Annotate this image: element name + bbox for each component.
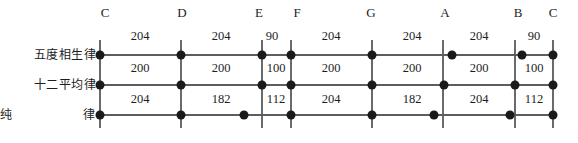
interval-value: 100 <box>267 62 286 75</box>
interval-value: 204 <box>470 30 489 43</box>
note-letter-c1: C <box>101 6 110 19</box>
node-dot <box>506 111 515 120</box>
node-dot <box>430 111 439 120</box>
pitch-systems-comparison-diagram: C D E F G A B C 五度相生律 十二平均律 纯 律 204 204 … <box>0 0 578 143</box>
note-letter-e: E <box>255 6 263 19</box>
node-dot <box>511 81 520 90</box>
node-dot <box>177 51 186 60</box>
interval-value: 100 <box>525 62 544 75</box>
interval-value: 204 <box>322 30 341 43</box>
node-dot <box>240 111 249 120</box>
node-dot <box>287 111 296 120</box>
interval-value: 200 <box>131 62 150 75</box>
node-dot <box>258 51 267 60</box>
staff-line-equal-temperament <box>99 84 555 86</box>
interval-value: 112 <box>525 93 543 106</box>
interval-value: 182 <box>403 93 422 106</box>
node-dot <box>549 51 558 60</box>
interval-value: 204 <box>131 30 150 43</box>
interval-value: 112 <box>267 93 285 106</box>
node-dot <box>448 51 457 60</box>
interval-value: 200 <box>322 62 341 75</box>
interval-value: 200 <box>212 62 231 75</box>
node-dot <box>96 111 105 120</box>
interval-value: 204 <box>131 93 150 106</box>
node-dot <box>287 81 296 90</box>
node-dot <box>440 81 449 90</box>
interval-value: 182 <box>212 93 231 106</box>
interval-value: 204 <box>403 30 422 43</box>
staff-line-pythagorean <box>99 54 555 56</box>
note-letter-d: D <box>177 6 186 19</box>
row-label-just-intonation: 纯 律 <box>0 109 96 121</box>
node-dot <box>177 81 186 90</box>
interval-value: 204 <box>212 30 231 43</box>
node-dot <box>368 51 377 60</box>
note-letter-c2: C <box>549 6 558 19</box>
interval-value: 90 <box>266 30 279 43</box>
note-letter-a: A <box>440 6 449 19</box>
interval-value: 200 <box>470 62 489 75</box>
interval-value: 200 <box>403 62 422 75</box>
row-label-pythagorean: 五度相生律 <box>0 49 96 61</box>
note-letter-b: B <box>514 6 523 19</box>
interval-value: 204 <box>470 93 489 106</box>
node-dot <box>177 111 186 120</box>
node-dot <box>368 111 377 120</box>
interval-value: 90 <box>528 30 541 43</box>
node-dot <box>287 51 296 60</box>
node-dot <box>368 81 377 90</box>
interval-value: 204 <box>322 93 341 106</box>
node-dot <box>549 81 558 90</box>
node-dot <box>518 51 527 60</box>
node-dot <box>96 51 105 60</box>
row-label-just-intonation-text: 纯 律 <box>0 109 96 121</box>
node-dot <box>549 111 558 120</box>
row-label-equal-temperament: 十二平均律 <box>0 79 96 91</box>
staff-line-just-intonation <box>99 114 555 116</box>
node-dot <box>258 81 267 90</box>
note-letter-f: F <box>293 6 300 19</box>
node-dot <box>96 81 105 90</box>
note-letter-g: G <box>366 6 375 19</box>
